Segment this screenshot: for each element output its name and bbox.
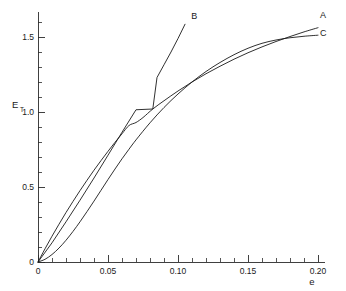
- chart-figure: 00.51.01.5 00.050.100.150.20 ABC E T e: [0, 0, 346, 291]
- series-label-b: B: [191, 11, 197, 21]
- x-axis-tick-label: 0: [36, 266, 41, 276]
- x-axis-tick-label: 0.05: [100, 266, 117, 276]
- x-axis-tick-label: 0.20: [310, 266, 327, 276]
- y-axis-tick-label: 0: [29, 257, 34, 267]
- series-label-a: A: [320, 10, 326, 20]
- y-axis-tick-label: 0.5: [22, 182, 34, 192]
- y-axis-tick-label: 1.0: [22, 107, 34, 117]
- y-axis-tick-label: 1.5: [22, 32, 34, 42]
- series-label-c: C: [320, 28, 327, 38]
- x-axis-title-text: e: [309, 276, 314, 287]
- y-axis-title-text: E: [12, 99, 18, 110]
- x-axis-tick-label: 0.10: [170, 266, 187, 276]
- x-axis-tick-label: 0.15: [240, 266, 257, 276]
- y-axis-title-subscript: T: [20, 106, 24, 113]
- plot-canvas: 00.51.01.5 00.050.100.150.20 ABC E T e: [0, 0, 346, 291]
- chart-background: [0, 0, 346, 291]
